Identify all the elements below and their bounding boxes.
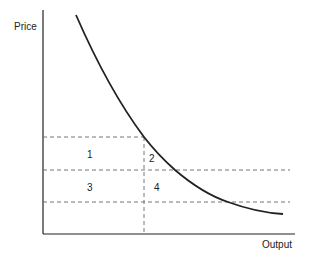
region-1-label: 1	[87, 149, 93, 160]
region-2-label: 2	[149, 153, 155, 164]
demand-curve	[76, 15, 283, 214]
region-4-label: 4	[154, 182, 160, 193]
y-axis-label: Price	[14, 21, 37, 32]
region-3-label: 3	[87, 182, 93, 193]
demand-diagram: Price Output 1 2 3 4	[0, 0, 310, 260]
x-axis-label: Output	[262, 239, 292, 250]
